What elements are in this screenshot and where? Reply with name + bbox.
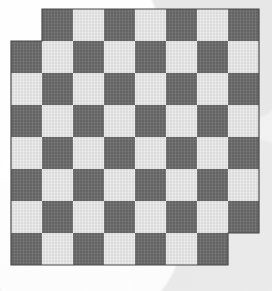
board-square[interactable]	[135, 137, 166, 169]
board-square[interactable]	[104, 41, 135, 73]
board-square[interactable]	[11, 105, 42, 137]
board-square[interactable]	[42, 201, 73, 233]
board-square[interactable]	[228, 105, 259, 137]
board-square[interactable]	[135, 41, 166, 73]
board-square[interactable]	[73, 41, 104, 73]
board-square[interactable]	[166, 41, 197, 73]
board-square[interactable]	[73, 233, 104, 265]
board-square[interactable]	[42, 233, 73, 265]
board-square[interactable]	[104, 73, 135, 105]
board-square[interactable]	[73, 105, 104, 137]
board-square[interactable]	[166, 233, 197, 265]
board-square[interactable]	[197, 137, 228, 169]
board-square[interactable]	[135, 233, 166, 265]
board-square[interactable]	[73, 169, 104, 201]
board-square[interactable]	[73, 73, 104, 105]
board-square[interactable]	[135, 201, 166, 233]
board-square[interactable]	[42, 137, 73, 169]
board-square[interactable]	[228, 41, 259, 73]
board-square[interactable]	[166, 137, 197, 169]
board-square[interactable]	[197, 169, 228, 201]
board-square[interactable]	[104, 105, 135, 137]
board-square[interactable]	[11, 137, 42, 169]
board-square[interactable]	[135, 105, 166, 137]
board-square[interactable]	[228, 137, 259, 169]
board-square[interactable]	[42, 9, 73, 41]
board-square[interactable]	[104, 233, 135, 265]
board-square[interactable]	[42, 73, 73, 105]
board-square[interactable]	[11, 169, 42, 201]
board-square[interactable]	[197, 105, 228, 137]
board-square[interactable]	[42, 41, 73, 73]
board-square[interactable]	[135, 9, 166, 41]
board-square[interactable]	[11, 201, 42, 233]
board-square[interactable]	[166, 169, 197, 201]
board-square[interactable]	[104, 137, 135, 169]
board-square[interactable]	[11, 233, 42, 265]
board-square[interactable]	[73, 9, 104, 41]
board-square[interactable]	[228, 73, 259, 105]
board-square[interactable]	[11, 41, 42, 73]
board-square[interactable]	[73, 137, 104, 169]
board-square[interactable]	[166, 73, 197, 105]
board-square[interactable]	[166, 201, 197, 233]
board-square[interactable]	[197, 9, 228, 41]
board-square[interactable]	[166, 105, 197, 137]
board-square[interactable]	[135, 169, 166, 201]
checkerboard	[10, 8, 259, 264]
board-square[interactable]	[135, 73, 166, 105]
board-square[interactable]	[197, 73, 228, 105]
board-square[interactable]	[104, 169, 135, 201]
board-square[interactable]	[42, 105, 73, 137]
board-square[interactable]	[197, 233, 228, 265]
image-canvas	[0, 0, 272, 291]
board-square[interactable]	[104, 9, 135, 41]
board-square[interactable]	[104, 201, 135, 233]
board-square[interactable]	[166, 9, 197, 41]
board-square[interactable]	[11, 73, 42, 105]
board-square[interactable]	[228, 201, 259, 233]
board-square[interactable]	[197, 41, 228, 73]
board-square[interactable]	[42, 169, 73, 201]
board-square[interactable]	[197, 201, 228, 233]
board-square[interactable]	[228, 9, 259, 41]
board-square[interactable]	[73, 201, 104, 233]
board-square[interactable]	[228, 169, 259, 201]
